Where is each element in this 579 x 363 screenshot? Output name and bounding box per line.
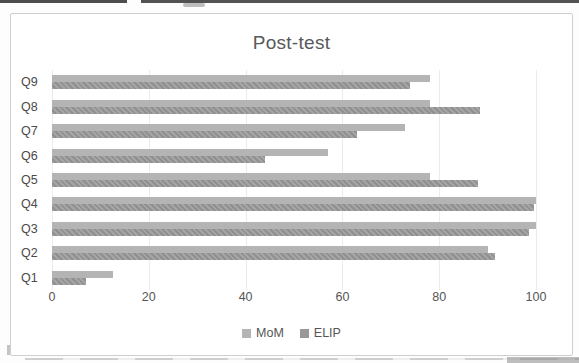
bar-group-q7 bbox=[52, 119, 536, 143]
scan-streak-top-right bbox=[141, 0, 579, 3]
bar-group-q2 bbox=[52, 241, 536, 265]
scan-streak-top-left bbox=[0, 0, 127, 3]
bar-elip-q3 bbox=[52, 229, 529, 236]
bar-mom-q7 bbox=[52, 124, 405, 131]
legend-item-elip: ELIP bbox=[300, 326, 341, 340]
bar-elip-q2 bbox=[52, 253, 495, 260]
bar-elip-q4 bbox=[52, 204, 534, 211]
legend-label-mom: MoM bbox=[256, 326, 284, 340]
bar-elip-q6 bbox=[52, 156, 265, 163]
bar-elip-q5 bbox=[52, 180, 478, 187]
x-axis: 020406080100 bbox=[52, 290, 536, 306]
bar-group-q5 bbox=[52, 168, 536, 192]
x-axis-tick-label: 60 bbox=[335, 290, 349, 304]
bar-group-q8 bbox=[52, 94, 536, 118]
bar-elip-q8 bbox=[52, 107, 480, 114]
bar-mom-q1 bbox=[52, 271, 113, 278]
bar-group-q6 bbox=[52, 143, 536, 167]
x-axis-tick-label: 40 bbox=[239, 290, 253, 304]
category-label-q6: Q6 bbox=[21, 143, 51, 167]
legend-swatch-elip bbox=[300, 329, 309, 338]
bar-mom-q4 bbox=[52, 197, 536, 204]
category-label-q3: Q3 bbox=[21, 217, 51, 241]
scan-smudge-top bbox=[183, 3, 205, 7]
category-label-q4: Q4 bbox=[21, 192, 51, 216]
legend-item-mom: MoM bbox=[242, 326, 284, 340]
bar-mom-q3 bbox=[52, 222, 536, 229]
x-axis-tick-label: 100 bbox=[526, 290, 547, 304]
category-label-q7: Q7 bbox=[21, 119, 51, 143]
bar-elip-q1 bbox=[52, 278, 86, 285]
legend-swatch-mom bbox=[242, 329, 251, 338]
bar-mom-q2 bbox=[52, 246, 488, 253]
chart-title: Post-test bbox=[11, 32, 572, 54]
category-label-q5: Q5 bbox=[21, 168, 51, 192]
category-axis: Q9Q8Q7Q6Q5Q4Q3Q2Q1 bbox=[21, 70, 51, 290]
x-axis-tick-label: 80 bbox=[432, 290, 446, 304]
scan-smudge-bottom-right bbox=[507, 357, 579, 363]
bar-group-q4 bbox=[52, 192, 536, 216]
category-label-q9: Q9 bbox=[21, 70, 51, 94]
bars-layer bbox=[52, 70, 536, 290]
bar-mom-q5 bbox=[52, 173, 430, 180]
plot-area bbox=[52, 70, 536, 290]
bar-group-q3 bbox=[52, 217, 536, 241]
bar-mom-q6 bbox=[52, 149, 328, 156]
bar-group-q9 bbox=[52, 70, 536, 94]
x-axis-tick-label: 0 bbox=[49, 290, 56, 304]
category-label-q1: Q1 bbox=[21, 266, 51, 290]
scan-smudge-bottom bbox=[25, 358, 579, 360]
legend-label-elip: ELIP bbox=[314, 326, 341, 340]
bar-mom-q8 bbox=[52, 100, 430, 107]
legend: MoMELIP bbox=[11, 325, 572, 341]
bar-elip-q7 bbox=[52, 131, 357, 138]
bar-group-q1 bbox=[52, 266, 536, 290]
category-label-q8: Q8 bbox=[21, 94, 51, 118]
x-axis-tick-label: 20 bbox=[142, 290, 156, 304]
category-label-q2: Q2 bbox=[21, 241, 51, 265]
chart-container: Post-test Q9Q8Q7Q6Q5Q4Q3Q2Q1 02040608010… bbox=[10, 13, 573, 356]
gridline bbox=[536, 70, 537, 290]
bar-elip-q9 bbox=[52, 82, 410, 89]
bar-mom-q9 bbox=[52, 75, 430, 82]
